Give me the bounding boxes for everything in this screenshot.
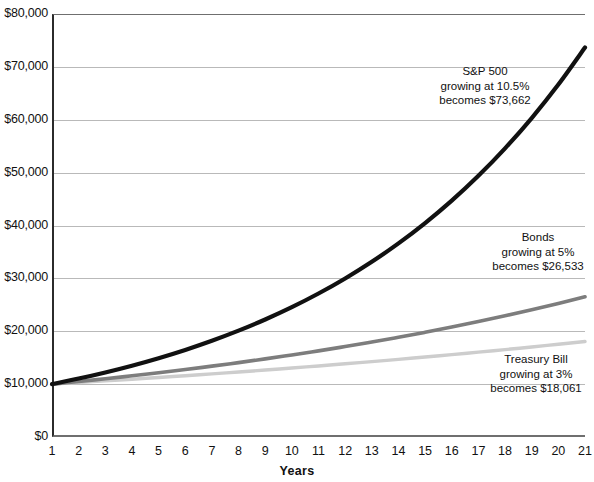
- x-axis-tick-label: 13: [359, 444, 385, 458]
- x-axis-tick-label: 21: [572, 444, 594, 458]
- annotation-bonds-rate: growing at 5%: [482, 245, 594, 260]
- x-axis-tick-label: 15: [412, 444, 438, 458]
- x-axis-tick-label: 6: [172, 444, 198, 458]
- annotation-bonds-title: Bonds: [482, 230, 594, 245]
- annotation-sp500-rate: growing at 10.5%: [420, 79, 550, 94]
- annotation-sp500: S&P 500 growing at 10.5% becomes $73,662: [420, 64, 550, 108]
- investment-growth-chart: $80,000$70,000$60,000$50,000$40,000$30,0…: [0, 0, 594, 482]
- x-axis-tick-label: 4: [119, 444, 145, 458]
- x-axis-tick-label: 17: [465, 444, 491, 458]
- x-axis-tick-label: 12: [332, 444, 358, 458]
- annotation-sp500-title: S&P 500: [420, 64, 550, 79]
- x-axis-tick-label: 3: [92, 444, 118, 458]
- annotation-bonds-value: becomes $26,533: [482, 259, 594, 274]
- x-axis-tick-label: 11: [306, 444, 332, 458]
- x-axis-tick-label: 20: [545, 444, 571, 458]
- x-axis-tick-label: 10: [279, 444, 305, 458]
- x-axis-tick-label: 2: [66, 444, 92, 458]
- x-axis-tick-label: 16: [439, 444, 465, 458]
- x-axis-tick-label: 9: [252, 444, 278, 458]
- x-axis-tick-label: 19: [519, 444, 545, 458]
- annotation-sp500-value: becomes $73,662: [420, 93, 550, 108]
- annotation-treasury-bill-title: Treasury Bill: [478, 352, 594, 367]
- annotation-treasury-bill-value: becomes $18,061: [478, 381, 594, 396]
- annotation-bonds: Bonds growing at 5% becomes $26,533: [482, 230, 594, 274]
- annotation-treasury-bill: Treasury Bill growing at 3% becomes $18,…: [478, 352, 594, 396]
- x-axis-tick-label: 1: [39, 444, 65, 458]
- annotation-treasury-bill-rate: growing at 3%: [478, 367, 594, 382]
- x-axis-tick-label: 18: [492, 444, 518, 458]
- x-axis-title: Years: [0, 464, 594, 478]
- x-axis-tick-label: 7: [199, 444, 225, 458]
- x-axis-tick-label: 8: [226, 444, 252, 458]
- x-axis-tick-label: 14: [385, 444, 411, 458]
- x-axis-tick-label: 5: [146, 444, 172, 458]
